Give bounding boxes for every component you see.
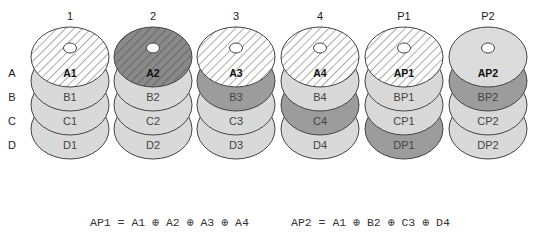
block-label-dp2: DP2 [477,139,498,151]
spindle-hole-icon [398,43,411,53]
block-label-cp1: CP1 [393,115,414,127]
block-label-ap2: AP2 [478,67,499,79]
block-label-a2: A2 [146,67,160,79]
block-label-d1: D1 [63,139,77,151]
disk-stack-p1: P1AP1BP1CP1DP1 [365,10,443,159]
disk-title: 3 [233,10,239,22]
block-label-c3: C3 [229,115,243,127]
spindle-hole-icon [230,43,243,53]
disk-stacks: 1A1B1C1D12A2B2C2D23A3B3C3D34A4B4C4D4P1AP… [31,10,527,159]
block-label-bp1: BP1 [394,91,415,103]
disk-stack-2: 2A2B2C2D2 [114,10,192,159]
block-label-c1: C1 [63,115,77,127]
disk-title: 2 [150,10,156,22]
block-label-a4: A4 [313,67,327,79]
row-label-b: B [8,91,15,103]
disk-stack-4: 4A4B4C4D4 [281,10,359,159]
spindle-hole-icon [64,43,77,53]
spindle-hole-icon [147,43,160,53]
block-label-c2: C2 [146,115,160,127]
block-label-b2: B2 [146,91,159,103]
block-label-b4: B4 [313,91,326,103]
block-label-d4: D4 [313,139,327,151]
equation-ap2: AP2 = A1 ⊕ B2 ⊕ C3 ⊕ D4 [291,214,457,232]
disk-title: 1 [67,10,73,22]
row-label-c: C [8,115,16,127]
raid-disk-diagram: ABCD 1A1B1C1D12A2B2C2D23A3B3C3D34A4B4C4D… [0,0,541,180]
disk-stack-1: 1A1B1C1D1 [31,10,109,159]
block-label-b1: B1 [63,91,76,103]
parity-equations-right: AP2 = A1 ⊕ B2 ⊕ C3 ⊕ D4 BP2 = A2 ⊕ B3 ⊕ … [291,178,457,252]
block-label-c4: C4 [313,115,327,127]
disk-title: 4 [317,10,323,22]
disk-title: P2 [481,10,494,22]
block-label-ap1: AP1 [394,67,415,79]
block-label-b3: B3 [229,91,242,103]
block-label-d2: D2 [146,139,160,151]
equation-ap1: AP1 = A1 ⊕ A2 ⊕ A3 ⊕ A4 [90,214,249,232]
block-label-a3: A3 [229,67,243,79]
row-label-d: D [8,139,16,151]
block-label-dp1: DP1 [393,139,414,151]
spindle-hole-icon [482,43,495,53]
disk-stack-3: 3A3B3C3D3 [197,10,275,159]
block-label-a1: A1 [63,67,77,79]
row-label-a: A [8,67,16,79]
block-label-cp2: CP2 [477,115,498,127]
disk-stack-p2: P2AP2BP2CP2DP2 [449,10,527,159]
spindle-hole-icon [314,43,327,53]
block-label-d3: D3 [229,139,243,151]
block-label-bp2: BP2 [478,91,499,103]
row-labels: ABCD [8,67,16,151]
disk-title: P1 [397,10,410,22]
parity-equations-left: AP1 = A1 ⊕ A2 ⊕ A3 ⊕ A4 BP1 = B1 ⊕ B2 ⊕ … [90,178,249,252]
